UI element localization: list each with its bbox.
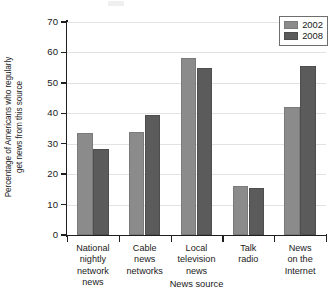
x-axis-tick-2 — [171, 235, 172, 242]
legend-label-2002: 2002 — [302, 20, 323, 29]
bar-2002-4 — [284, 107, 300, 235]
y-axis-label-40: 40 — [18, 108, 58, 118]
gridline-60 — [67, 52, 326, 53]
x-axis-tick-5 — [326, 235, 327, 242]
bar-2002-2 — [181, 58, 197, 235]
y-axis-title-line-1: Percentage of Americans who regularly — [3, 57, 14, 198]
bar-2008-1 — [145, 115, 161, 235]
x-axis-category-line: network — [67, 266, 119, 277]
x-axis-category-line: Talk — [222, 243, 274, 254]
x-axis-category-line: radio — [222, 254, 274, 265]
bar-2008-3 — [249, 188, 265, 235]
x-axis-tick-3 — [222, 235, 223, 242]
scan-artifact — [108, 1, 124, 6]
y-axis-tick-10 — [61, 204, 66, 205]
x-axis-category-line: Internet — [274, 266, 326, 277]
x-axis-category-line: News — [274, 243, 326, 254]
y-axis-label-0: 0 — [18, 230, 58, 240]
y-axis-label-50: 50 — [18, 78, 58, 88]
x-axis-tick-1 — [119, 235, 120, 242]
y-axis-label-30: 30 — [18, 139, 58, 149]
y-axis-label-60: 60 — [18, 48, 58, 58]
x-axis-category-line: Local — [171, 243, 223, 254]
x-axis-category-line: National — [67, 243, 119, 254]
x-axis-category-line: nightly — [67, 254, 119, 265]
y-axis-label-70: 70 — [18, 17, 58, 27]
legend-swatch-2002 — [284, 21, 298, 29]
x-axis-category-line: on the — [274, 254, 326, 265]
y-axis-tick-50 — [61, 82, 66, 83]
bar-2008-0 — [93, 149, 109, 235]
x-axis-category-4: Newson theInternet — [274, 243, 326, 277]
y-axis-tick-30 — [61, 143, 66, 144]
y-axis-tick-40 — [61, 113, 66, 114]
bar-2002-1 — [129, 132, 145, 235]
x-axis-category-line: television — [171, 254, 223, 265]
y-axis-tick-0 — [61, 234, 66, 235]
x-axis-category-line: news — [171, 266, 223, 277]
x-axis-category-3: Talkradio — [222, 243, 274, 266]
x-axis-category-line: Cable — [119, 243, 171, 254]
x-axis-title: News source — [67, 279, 326, 289]
bar-2008-2 — [197, 68, 213, 235]
bar-2002-3 — [233, 186, 249, 235]
legend-swatch-2008 — [284, 32, 298, 40]
bar-2002-0 — [77, 133, 93, 235]
bar-2008-4 — [300, 66, 316, 235]
plot-area — [67, 22, 326, 235]
y-axis-tick-60 — [61, 52, 66, 53]
x-axis-tick-0 — [67, 235, 68, 242]
bar-chart: Percentage of Americans who regularly ge… — [0, 0, 333, 295]
x-axis-tick-4 — [274, 235, 275, 242]
y-axis-label-10: 10 — [18, 200, 58, 210]
x-axis-category-line: networks — [119, 266, 171, 277]
x-axis-category-line: news — [119, 254, 171, 265]
y-axis-tick-20 — [61, 173, 66, 174]
legend-item-2008: 2008 — [284, 31, 323, 42]
y-axis-tick-70 — [61, 21, 66, 22]
legend: 2002 2008 — [279, 16, 328, 46]
y-axis-label-20: 20 — [18, 169, 58, 179]
legend-item-2002: 2002 — [284, 20, 323, 31]
legend-label-2008: 2008 — [302, 31, 323, 40]
x-axis-category-1: Cablenewsnetworks — [119, 243, 171, 277]
x-axis-category-2: Localtelevisionnews — [171, 243, 223, 277]
